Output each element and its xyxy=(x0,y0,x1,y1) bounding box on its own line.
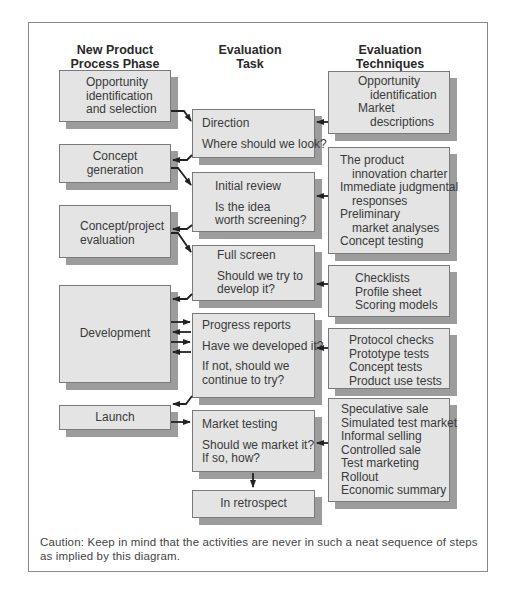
phase-text: Concept/project xyxy=(80,220,170,234)
task-question: Should we market it? xyxy=(202,439,314,453)
technique-item: Opportunity xyxy=(358,75,449,89)
technique-item: responses xyxy=(340,195,449,209)
task-title: In retrospect xyxy=(220,497,287,511)
technique-item: Product use tests xyxy=(349,375,449,389)
header-line: Techniques xyxy=(340,57,440,71)
phase-text: and selection xyxy=(86,103,170,117)
task-question: continue to try? xyxy=(202,374,314,388)
task-question: develop it? xyxy=(217,283,314,297)
technique-item: Checklists xyxy=(355,272,449,286)
task-full-screen: Full screen Should we try to develop it? xyxy=(192,245,315,301)
phase-opportunity-identification: Opportunity identification and selection xyxy=(59,70,171,122)
task-title: Initial review xyxy=(215,180,314,194)
task-title: Market testing xyxy=(202,418,314,432)
technique-item: The product xyxy=(340,154,449,168)
phase-concept-project-evaluation: Concept/project evaluation xyxy=(59,205,171,258)
task-title: Progress reports xyxy=(202,319,314,333)
technique-item: Protocol checks xyxy=(349,334,449,348)
task-question: Should we try to xyxy=(217,270,314,284)
task-question: Have we developed it? xyxy=(202,340,314,354)
task-initial-review: Initial review Is the idea worth screeni… xyxy=(192,172,315,232)
header-line: Evaluation xyxy=(340,43,440,57)
phase-launch: Launch xyxy=(59,405,171,430)
task-question: If so, how? xyxy=(202,452,314,466)
header-line: New Product xyxy=(58,43,172,57)
header-evaluation-techniques: Evaluation Techniques xyxy=(340,43,440,71)
technique-item: Speculative sale xyxy=(341,403,449,417)
technique-item: Economic summary xyxy=(341,484,449,498)
task-question: If not, should we xyxy=(202,360,314,374)
header-evaluation-task: Evaluation Task xyxy=(200,43,300,71)
phase-text: Concept xyxy=(93,150,138,164)
task-direction: Direction Where should we look? xyxy=(192,109,315,158)
task-question: Is the idea xyxy=(215,201,314,215)
technique-item: Concept tests xyxy=(349,361,449,375)
phase-text: evaluation xyxy=(80,234,170,248)
technique-item: Informal selling xyxy=(341,430,449,444)
header-line: Evaluation xyxy=(200,43,300,57)
phase-text: generation xyxy=(87,164,144,178)
task-in-retrospect: In retrospect xyxy=(192,490,315,518)
technique-item: innovation charter xyxy=(340,168,449,182)
techniques-full-screen: Checklists Profile sheet Scoring models xyxy=(328,265,450,317)
task-market-testing: Market testing Should we market it? If s… xyxy=(192,410,315,472)
technique-item: identification xyxy=(358,89,449,103)
technique-item: Rollout xyxy=(341,471,449,485)
phase-development: Development xyxy=(59,285,171,383)
technique-item: Controlled sale xyxy=(341,444,449,458)
task-title: Full screen xyxy=(217,249,314,263)
technique-item: Prototype tests xyxy=(349,348,449,362)
task-question: Where should we look? xyxy=(202,138,314,152)
techniques-concept: The product innovation charter Immediate… xyxy=(328,147,450,254)
task-title: Direction xyxy=(202,117,314,131)
header-line: Process Phase xyxy=(58,57,172,71)
technique-item: Scoring models xyxy=(355,299,449,313)
task-progress-reports: Progress reports Have we developed it? I… xyxy=(192,313,315,398)
task-question: worth screening? xyxy=(215,214,314,228)
technique-item: Market xyxy=(358,102,449,116)
technique-item: Simulated test market xyxy=(341,417,449,431)
techniques-opportunity: Opportunity identification Market descri… xyxy=(328,71,450,134)
technique-item: Immediate judgmental xyxy=(340,181,449,195)
technique-item: descriptions xyxy=(358,116,449,130)
header-line: Task xyxy=(200,57,300,71)
phase-text: Opportunity xyxy=(86,76,170,90)
phase-text: identification xyxy=(86,90,170,104)
phase-text: Launch xyxy=(95,411,134,425)
technique-item: Preliminary xyxy=(340,208,449,222)
technique-item: Profile sheet xyxy=(355,286,449,300)
header-new-product-process-phase: New Product Process Phase xyxy=(58,43,172,71)
caution-caption: Caution: Keep in mind that the activitie… xyxy=(40,536,480,563)
technique-item: Test marketing xyxy=(341,457,449,471)
technique-item: market analyses xyxy=(340,222,449,236)
phase-concept-generation: Concept generation xyxy=(59,144,171,183)
phase-text: Development xyxy=(80,327,151,341)
techniques-market-testing: Speculative sale Simulated test market I… xyxy=(328,398,450,502)
techniques-development: Protocol checks Prototype tests Concept … xyxy=(328,328,450,389)
technique-item: Concept testing xyxy=(340,235,449,249)
